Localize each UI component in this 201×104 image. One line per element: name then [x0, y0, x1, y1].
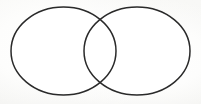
venn-diagram-canvas [0, 0, 201, 104]
venn-diagram-svg [0, 0, 201, 104]
